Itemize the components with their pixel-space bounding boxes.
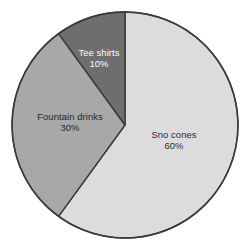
pie-label-fountain-drinks-name: Fountain drinks (22, 111, 118, 122)
pie-label-fountain-drinks: Fountain drinks 30% (22, 111, 118, 134)
pie-label-tee-shirts: Tee shirts 10% (64, 47, 134, 70)
pie-label-sno-cones-value: 60% (137, 140, 211, 151)
pie-label-sno-cones-name: Sno cones (137, 129, 211, 140)
pie-label-sno-cones: Sno cones 60% (137, 129, 211, 152)
pie-chart: Sno cones 60% Fountain drinks 30% Tee sh… (0, 0, 250, 250)
pie-label-tee-shirts-name: Tee shirts (64, 47, 134, 58)
pie-label-fountain-drinks-value: 30% (22, 122, 118, 133)
pie-label-tee-shirts-value: 10% (64, 58, 134, 69)
